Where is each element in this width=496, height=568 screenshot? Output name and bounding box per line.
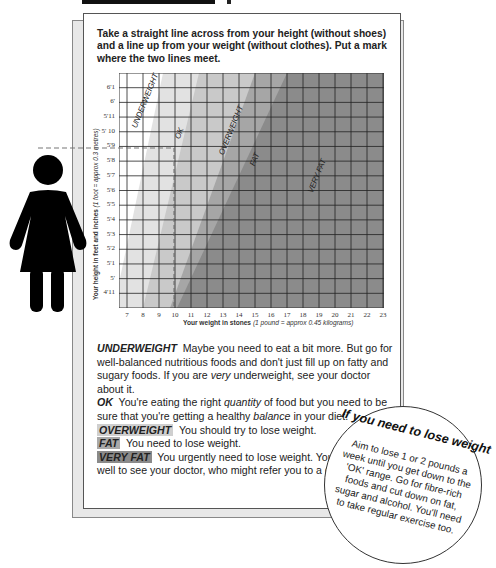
y-tick: 6'1	[95, 83, 115, 91]
x-tick: 15	[248, 311, 262, 319]
x-tick: 17	[280, 311, 294, 319]
x-tick: 18	[296, 311, 310, 319]
x-tick: 9	[152, 311, 166, 319]
x-tick: 11	[184, 311, 198, 319]
x-tick: 7	[120, 311, 134, 319]
instructions-text: Take a straight line across from your he…	[97, 28, 387, 65]
callout-body: Aim to lose 1 or 2 pounds a week until y…	[326, 435, 479, 539]
y-tick: 5'11	[95, 112, 115, 120]
x-tick: 21	[344, 311, 358, 319]
height-weight-chart	[119, 73, 384, 308]
y-tick: 6'	[95, 97, 115, 105]
lose-weight-callout: If you need to lose weight Aim to lose 1…	[324, 406, 482, 564]
x-tick: 8	[136, 311, 150, 319]
x-axis-label: Your weight in stones (1 pound = approx …	[183, 319, 354, 326]
woman-silhouette-icon	[0, 150, 92, 315]
x-tick: 23	[376, 311, 390, 319]
x-tick: 13	[216, 311, 230, 319]
header-bar	[82, 0, 215, 4]
y-axis-label: Your height in feet and inches (1 foot =…	[92, 128, 99, 300]
header-mark	[227, 0, 231, 4]
x-tick: 12	[200, 311, 214, 319]
desc-underweight: UNDERWEIGHT Maybe you need to eat a bit …	[97, 342, 397, 396]
x-tick: 22	[360, 311, 374, 319]
x-tick: 14	[232, 311, 246, 319]
chart-plot	[119, 73, 384, 308]
x-tick: 19	[312, 311, 326, 319]
x-tick: 10	[168, 311, 182, 319]
x-tick: 20	[328, 311, 342, 319]
x-tick: 16	[264, 311, 278, 319]
